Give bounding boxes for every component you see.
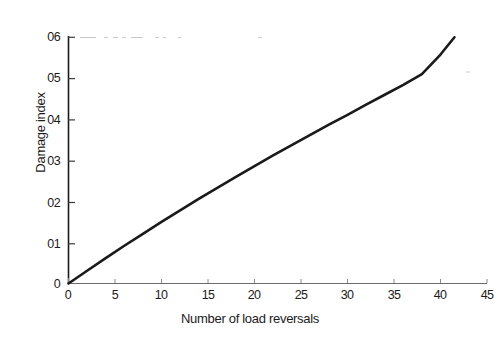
xtick-label-30: 30 xyxy=(341,288,354,302)
xtick-label-20: 20 xyxy=(248,288,261,302)
y-axis-title: Damage index xyxy=(33,68,48,198)
xtick-label-25: 25 xyxy=(295,288,308,302)
chart-figure: 06 05 04 03 02 01 0 0 5 10 15 20 25 30 3… xyxy=(0,0,500,343)
x-axis-title: Number of load reversals xyxy=(0,311,500,326)
ytick-label-0.1: 01 xyxy=(18,237,60,251)
xtick-label-10: 10 xyxy=(155,288,168,302)
xtick-label-15: 15 xyxy=(202,288,215,302)
xtick-label-35: 35 xyxy=(388,288,401,302)
x-tick-marks xyxy=(69,278,488,283)
xtick-label-45: 45 xyxy=(481,288,494,302)
ytick-label-0.2: 02 xyxy=(18,196,60,210)
ytick-label-0.6: 06 xyxy=(18,30,60,44)
xtick-label-0: 0 xyxy=(65,288,71,302)
xtick-label-5: 5 xyxy=(112,288,118,302)
data-series-line xyxy=(69,37,455,283)
scan-artifacts xyxy=(80,38,470,73)
xtick-label-40: 40 xyxy=(434,288,447,302)
ytick-label-0: 0 xyxy=(18,277,60,291)
